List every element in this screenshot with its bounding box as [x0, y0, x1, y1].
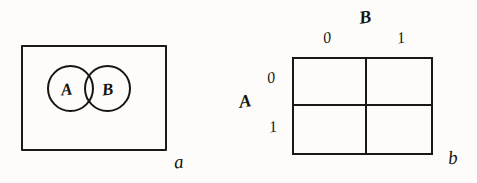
- panel-venn-diagram: A B a: [0, 0, 238, 183]
- row-tick-0: 0: [266, 69, 277, 86]
- column-variable-label: B: [358, 7, 372, 26]
- kmap-cell-a1-b1: [365, 105, 433, 155]
- kmap-cell-a0-b1: [365, 57, 433, 105]
- row-variable-label: A: [238, 91, 252, 110]
- set-label-a: A: [60, 80, 73, 98]
- kmap-cell-a0-b0: [292, 57, 365, 105]
- kmap-cell-a1-b0: [292, 105, 365, 155]
- set-label-b: B: [101, 80, 114, 98]
- column-tick-1: 1: [396, 29, 407, 46]
- row-tick-1: 1: [268, 118, 279, 135]
- column-tick-0: 0: [322, 29, 333, 46]
- panel-a-caption: a: [173, 152, 184, 172]
- panel-b-caption: b: [447, 148, 458, 168]
- panel-karnaugh-map: B A 0 1 0 1 b: [238, 0, 477, 183]
- figure-container: A B a B A 0 1 0 1 b: [0, 0, 477, 183]
